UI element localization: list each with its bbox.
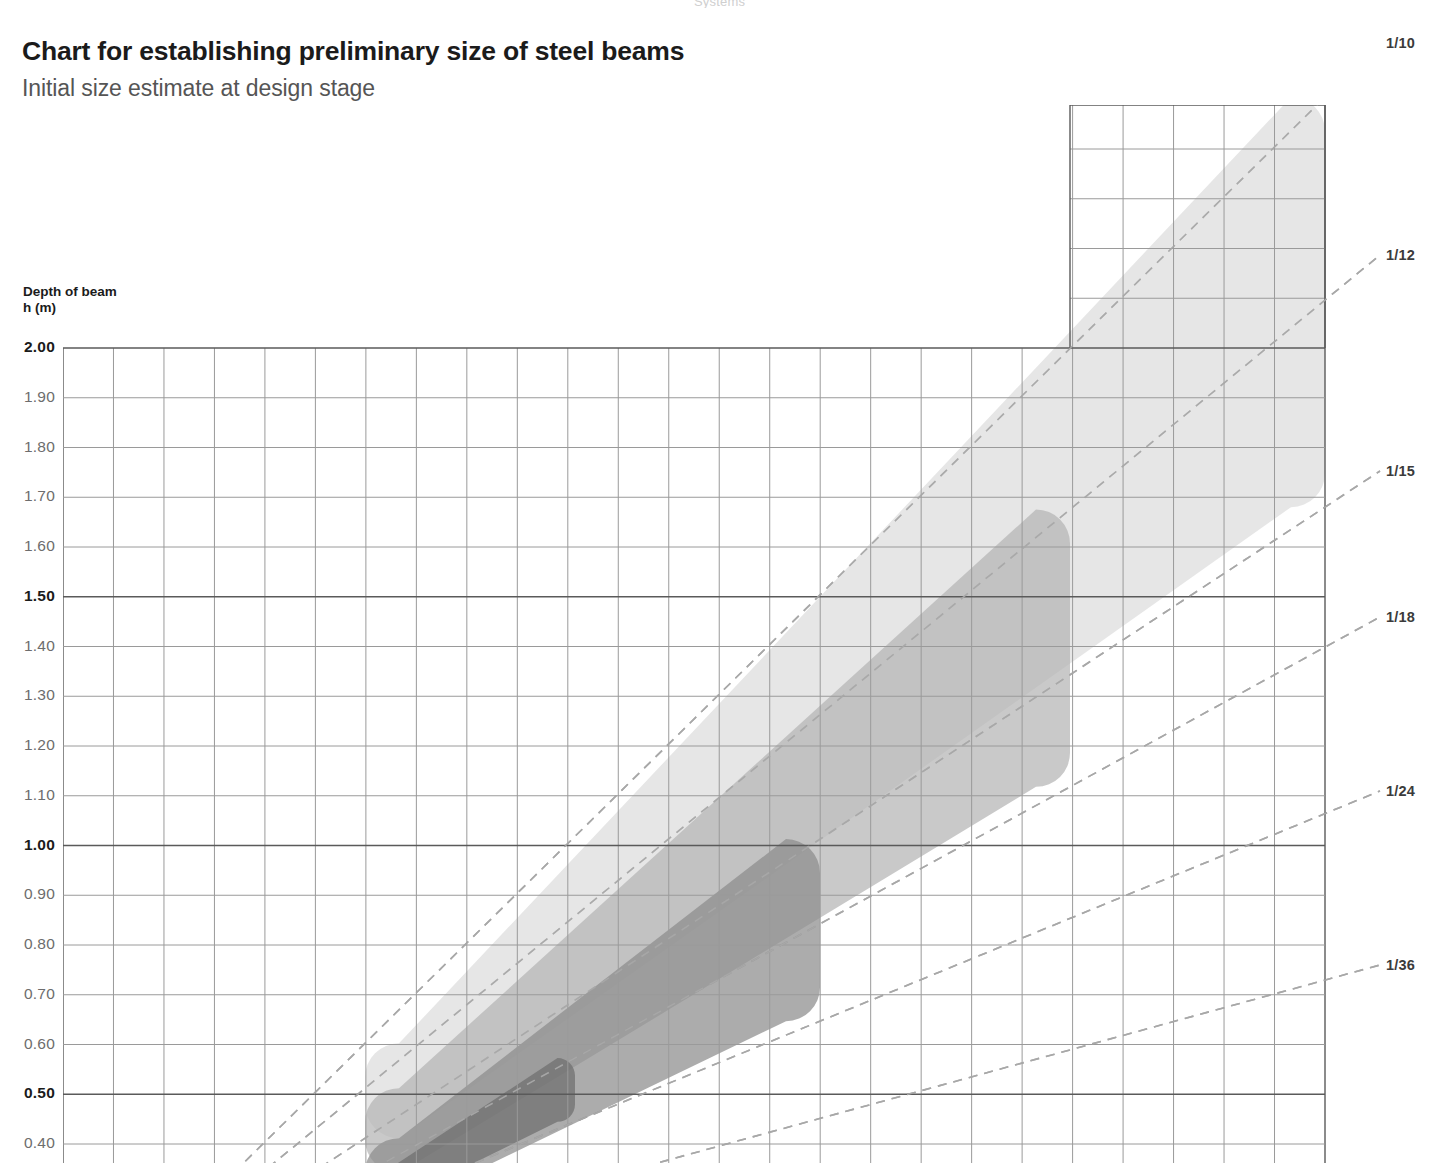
universal-beam-band [365,105,1325,1138]
running-head: Systems [0,0,1439,8]
y-tick-0-90: 0.90 [24,885,55,903]
composite-beam-band [365,509,1070,1163]
y-tick-0-80: 0.80 [24,935,55,953]
y-tick-0-60: 0.60 [24,1035,55,1053]
chart-page: Systems Chart for establishing prelimina… [0,0,1439,1163]
y-tick-0-70: 0.70 [24,985,55,1003]
y-tick-1-50: 1.50 [24,587,55,605]
page-title: Chart for establishing preliminary size … [22,36,684,67]
chart-plot-area [63,105,1325,1163]
y-tick-1-60: 1.60 [24,537,55,555]
y-tick-0-40: 0.40 [24,1134,55,1152]
y-tick-1-00: 1.00 [24,836,55,854]
y-tick-1-70: 1.70 [24,487,55,505]
y-tick-1-20: 1.20 [24,736,55,754]
y-tick-1-30: 1.30 [24,686,55,704]
ratio-label-1-10: 1/10 [1386,35,1415,51]
y-tick-1-10: 1.10 [24,786,55,804]
chart-svg [63,105,1439,1163]
y-tick-0-50: 0.50 [24,1084,55,1102]
y-tick-label-layer: 2.001.901.801.701.601.501.401.301.201.10… [0,0,55,1163]
band-group [365,105,1325,1163]
y-tick-1-90: 1.90 [24,388,55,406]
page-subtitle: Initial size estimate at design stage [22,75,375,102]
y-tick-2-00: 2.00 [24,338,55,356]
y-tick-1-40: 1.40 [24,637,55,655]
y-tick-1-80: 1.80 [24,438,55,456]
